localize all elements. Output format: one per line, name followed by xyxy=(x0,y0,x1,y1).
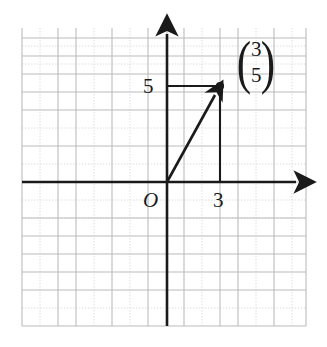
left-parenthesis: ( xyxy=(237,39,251,86)
vector-diagram-figure: 5 3 O ( 3 5 ) xyxy=(0,0,327,347)
y-axis-tick-label-5: 5 xyxy=(143,76,154,97)
right-parenthesis: ) xyxy=(261,39,275,86)
position-vector-arrow xyxy=(167,95,215,182)
origin-label: O xyxy=(143,190,158,211)
vector-head-point xyxy=(216,82,224,90)
x-axis-tick-label-3: 3 xyxy=(213,190,224,211)
column-vector-notation: ( 3 5 ) xyxy=(234,38,278,86)
